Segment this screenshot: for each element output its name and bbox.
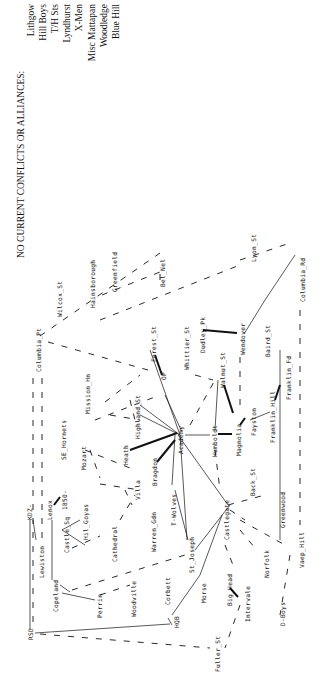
node-heath: Heath bbox=[122, 445, 129, 465]
node-mozart: Mozart bbox=[80, 446, 87, 470]
node-norfolk: Norfolk bbox=[263, 550, 270, 578]
node-morse: Morse bbox=[200, 583, 207, 603]
legend-group: Blue Hill bbox=[111, 4, 121, 39]
node-back-st: Back_St bbox=[249, 468, 257, 496]
node-franklin-hill: Franklin_Hill bbox=[269, 391, 277, 443]
legend-group: Misc Mattapan bbox=[87, 4, 97, 62]
node-woodville: Woodville bbox=[130, 581, 137, 617]
node-humboldt: Humboldt bbox=[211, 425, 218, 457]
node-fayston: Fayston bbox=[250, 408, 258, 436]
node-magnolia: Magnolia bbox=[235, 424, 243, 456]
legend-group: Lithgow bbox=[26, 4, 36, 36]
node-t-wolves: T-Wolves bbox=[170, 494, 177, 526]
node-bragdon: Bragdon bbox=[151, 458, 159, 486]
node-columbia-rd: Columbia_Rd bbox=[299, 258, 307, 302]
node-intervale: Intervale bbox=[244, 586, 251, 622]
node-villa: Villa bbox=[134, 480, 141, 500]
node-wendover: Wendover bbox=[239, 323, 246, 355]
node-vaep-hill: Vaep_Hill bbox=[298, 532, 306, 568]
gang-network-diagram: NO CURRENT CONFLICTS OR ALLIANCES: Lithg… bbox=[0, 0, 327, 693]
node-whittier-st: Whittier_St bbox=[183, 326, 191, 370]
node-walnut-st: Walnut_St bbox=[219, 352, 227, 388]
node-wilcox-st: Wilcox_St bbox=[56, 281, 64, 317]
node-lenox: Lenox bbox=[46, 500, 53, 520]
node-1850: 1850- bbox=[61, 490, 68, 510]
legend-group: Woodledge bbox=[99, 4, 109, 47]
node-forest-st: Forest_St bbox=[150, 326, 158, 362]
node-hil-goyas: Hil_Goyas bbox=[82, 504, 90, 540]
node-corbett: Corbett bbox=[164, 577, 171, 605]
legend-group: Lyndhurst bbox=[62, 4, 72, 43]
node-columbia-pt: Columbia_Pt bbox=[35, 328, 43, 372]
node-highland-st: Highland_St bbox=[134, 395, 142, 439]
node-copeland: Copeland bbox=[52, 580, 60, 612]
node-cathedral: Cathedral bbox=[111, 526, 118, 562]
node-castlegate: Castlegate bbox=[223, 500, 231, 540]
node-greenfield: Greenfield bbox=[111, 252, 118, 292]
legend-group: X-Men bbox=[74, 4, 84, 32]
node-franklin-fd: Franklin_Fd bbox=[285, 356, 293, 400]
node-perrin: Perrin bbox=[96, 594, 103, 618]
node-big-head: Big_Head bbox=[226, 574, 234, 606]
node-op: OP bbox=[160, 372, 167, 380]
node-castle-sq: Castle_Sq bbox=[63, 517, 71, 553]
node-lewiston: Lewiston bbox=[38, 546, 45, 578]
legend-group: T/H Sts bbox=[50, 4, 60, 34]
nodes: Columbia_Pt Wilcox_St Hainsborough Green… bbox=[26, 234, 307, 672]
node-greenwood: Greenwood bbox=[279, 492, 286, 528]
legend-title: NO CURRENT CONFLICTS OR ALLIANCES: bbox=[16, 71, 26, 258]
node-rsd: RSD bbox=[27, 628, 34, 640]
legend: NO CURRENT CONFLICTS OR ALLIANCES: Lithg… bbox=[16, 4, 121, 258]
node-warren-gdn: Warren_Gdn bbox=[150, 512, 158, 552]
legend-group: Hill Boys bbox=[38, 4, 48, 41]
node-kdz: KDZ- bbox=[26, 504, 33, 520]
node-d-boys: D-Boys bbox=[279, 602, 287, 626]
node-st-joseph: St_Joseph bbox=[188, 537, 196, 573]
node-lyon-st: Lyon_St bbox=[250, 234, 258, 262]
node-se-hornets: SE_Hornets bbox=[60, 420, 68, 460]
node-mission-hn: Mission_Hn bbox=[84, 374, 92, 414]
node-bel-nel: Bel_Nel bbox=[159, 259, 167, 287]
alliance-edges bbox=[54, 330, 280, 597]
node-dudley-pk: Dudley_Pk bbox=[199, 317, 207, 353]
node-hainsborough: Hainsborough bbox=[89, 260, 97, 308]
node-academy: Academy bbox=[177, 426, 185, 454]
node-baird-st: Baird_St bbox=[264, 325, 272, 357]
node-fuller-st: Fuller_St bbox=[214, 636, 222, 672]
node-hqb: HQB bbox=[173, 616, 180, 628]
